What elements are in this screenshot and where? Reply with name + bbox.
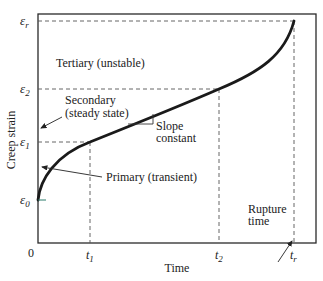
secondary-label-line2: (steady state) [65, 106, 129, 120]
x-axis-label: Time [165, 261, 190, 275]
rupture-label-line2: time [248, 214, 269, 228]
primary-label: Primary (transient) [106, 170, 197, 184]
tick-t2: t2 [215, 248, 223, 264]
origin-label: 0 [28, 246, 34, 260]
tick-epsilon-2: ε2 [20, 81, 30, 98]
tick-tr: tr [290, 248, 297, 264]
secondary-arrow [41, 117, 62, 128]
y-axis-label: Creep strain [4, 111, 18, 169]
tick-epsilon-0: ε0 [20, 192, 30, 209]
tick-t1: t1 [86, 248, 94, 264]
primary-arrow [42, 167, 102, 177]
tick-epsilon-1: ε1 [20, 134, 30, 151]
tick-epsilon-r: εr [20, 13, 29, 30]
slope-label-line2: constant [156, 131, 197, 145]
tertiary-label: Tertiary (unstable) [56, 56, 145, 70]
y-tick-labels: εr ε2 ε1 ε0 [20, 13, 30, 209]
creep-curve-diagram: εr ε2 ε1 ε0 0 t1 t2 tr Creep strain Time… [0, 0, 323, 281]
x-tick-labels: 0 t1 t2 tr [28, 246, 297, 264]
secondary-label-line1: Secondary [65, 93, 116, 107]
